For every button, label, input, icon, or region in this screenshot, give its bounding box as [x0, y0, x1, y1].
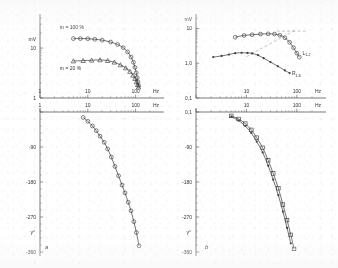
y-tick-label: -360	[26, 249, 36, 255]
series-line	[83, 117, 139, 245]
x-tick-label: 10	[244, 102, 250, 108]
panel-b-amplitude: 10100Hz0,11,010mVL1-2R1-6	[185, 14, 327, 101]
x-tick-label: 100	[131, 102, 140, 108]
data-point-dot	[263, 57, 265, 59]
data-point-dot	[256, 140, 258, 142]
x-axis-label: Hz	[153, 88, 160, 94]
y-axis-label: γ°	[187, 229, 192, 235]
y-tick-label: -180	[26, 179, 36, 185]
figure-canvas: 110100Hz110mVm = 100 %m = 20 %110100Hz-9…	[0, 0, 338, 268]
data-point-dot	[238, 119, 240, 121]
plot-annotation: m = 20 %	[60, 65, 82, 71]
panel-letter-a: a	[45, 244, 49, 250]
data-point-dot	[262, 151, 264, 153]
x-tick-label: 1	[39, 102, 42, 108]
y-axis-label: mV	[29, 36, 37, 42]
y-tick-label: 0,1	[185, 95, 192, 101]
data-point-dot	[284, 69, 286, 71]
bode-plot-figure: 110100Hz110mVm = 100 %m = 20 %110100Hz-9…	[0, 0, 338, 268]
x-tick-label: 100	[293, 102, 302, 108]
y-tick-label: -270	[182, 214, 192, 220]
data-point-dot	[272, 179, 274, 181]
y-tick-label: -270	[26, 214, 36, 220]
data-point-dot	[290, 242, 292, 244]
panel-a-phase: 110100Hz-90-180-270-360γ°	[26, 102, 164, 257]
data-point-dot	[250, 132, 252, 134]
series-phase	[81, 116, 141, 248]
data-point-dot	[240, 52, 242, 54]
y-tick-label: -90	[185, 144, 192, 150]
data-point-dot	[212, 56, 214, 58]
series-m-20-	[71, 58, 140, 89]
data-point-dot	[230, 116, 232, 118]
data-point-dot	[277, 65, 279, 67]
y-axis-label: γ°	[31, 229, 36, 235]
series-line	[231, 116, 294, 249]
data-point-dot	[267, 165, 269, 167]
series-annotation-subscript: 1-6	[296, 74, 301, 78]
x-tick-label: 100	[293, 88, 302, 94]
series-annotation: R1-6	[292, 70, 301, 78]
y-tick-label: 1,0	[185, 60, 192, 66]
data-point-dot	[257, 54, 259, 56]
series-annotation: L1-2	[303, 50, 311, 58]
y-tick-label: -90	[29, 144, 36, 150]
x-tick-label: 10	[85, 88, 91, 94]
series-annotation-subscript: 1-2	[305, 53, 310, 57]
y-tick-label: 10	[186, 25, 192, 31]
low-slope-asymptote	[246, 29, 296, 56]
data-point-dot	[277, 194, 279, 196]
y-tick-label: -360	[182, 249, 192, 255]
series-line	[231, 117, 291, 244]
x-tick-label: 1	[39, 88, 42, 94]
y-tick-label: 0,1	[185, 109, 192, 115]
data-point-dot	[246, 52, 248, 54]
data-point-dot	[251, 52, 253, 54]
data-point-dot	[282, 210, 284, 212]
y-tick-label: -180	[182, 179, 192, 185]
data-point-dot	[269, 61, 271, 63]
data-point-dot	[220, 55, 222, 57]
x-axis-label: Hz	[315, 88, 322, 94]
plot-annotation: m = 100 %	[60, 24, 85, 30]
panel-a-amplitude: 110100Hz110mVm = 100 %m = 20 %	[29, 14, 165, 101]
data-point-dot	[289, 72, 291, 74]
y-tick-label: 10	[30, 45, 36, 51]
panel-letter-b: b	[205, 244, 209, 250]
data-point-dot	[228, 53, 230, 55]
series-r1-6-phase	[230, 116, 292, 245]
y-tick-label: 1	[33, 95, 36, 101]
x-tick-label: 100	[131, 88, 140, 94]
x-axis-label: Hz	[153, 102, 160, 108]
y-axis-label: mV	[185, 16, 193, 22]
series-line	[213, 53, 289, 73]
x-axis-label: Hz	[315, 102, 322, 108]
series-l1-2-phase	[229, 114, 295, 251]
x-tick-label: 10	[244, 88, 250, 94]
data-point-dot	[286, 227, 288, 229]
x-tick-label: 10	[85, 102, 91, 108]
data-point-dot	[244, 125, 246, 127]
data-point-dot	[234, 52, 236, 54]
panel-b-phase: 10100Hz0,1-90-180-270-360γ°	[182, 102, 326, 257]
series-r1-6	[212, 52, 291, 75]
